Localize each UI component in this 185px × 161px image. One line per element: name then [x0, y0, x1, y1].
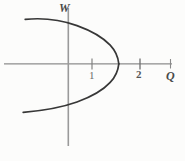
parabola-upper-branch	[25, 19, 119, 64]
w-axis-label: W	[59, 2, 69, 14]
q-axis-label: Q	[166, 70, 175, 82]
figure-container: W Q 1 2	[0, 0, 185, 161]
tick-label-1: 1	[89, 70, 95, 81]
parabola-lower-branch	[23, 64, 119, 113]
tick-label-2: 2	[136, 69, 142, 80]
